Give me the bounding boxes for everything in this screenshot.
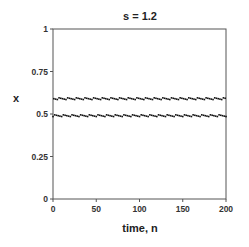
y-axis-ticks: 00.250.50.751 bbox=[31, 24, 53, 204]
chart: s = 1.2 x time, n 00.250.50.751 05010015… bbox=[0, 0, 249, 247]
y-tick-label: 0.5 bbox=[36, 109, 48, 119]
y-tick-label: 1 bbox=[43, 24, 48, 34]
y-tick-label: 0 bbox=[43, 194, 48, 204]
x-tick-label: 100 bbox=[132, 204, 146, 214]
x-tick-label: 0 bbox=[51, 204, 56, 214]
x-tick-label: 150 bbox=[176, 204, 190, 214]
plot-frame bbox=[53, 29, 226, 199]
y-tick-label: 0.25 bbox=[31, 152, 48, 162]
x-axis-label: time, n bbox=[122, 222, 158, 234]
y-tick-label: 0.75 bbox=[31, 67, 48, 77]
chart-title: s = 1.2 bbox=[123, 10, 157, 22]
y-axis-label: x bbox=[13, 92, 20, 104]
x-axis-ticks: 050100150200 bbox=[51, 199, 234, 214]
data-points bbox=[52, 97, 227, 117]
x-tick-label: 200 bbox=[219, 204, 233, 214]
x-tick-label: 50 bbox=[92, 204, 102, 214]
